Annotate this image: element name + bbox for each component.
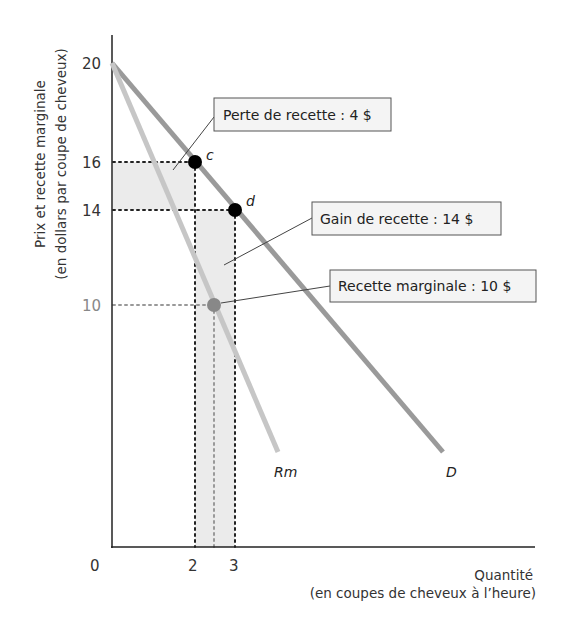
y-axis-subtitle: (en dollars par coupe de cheveux): [53, 48, 69, 280]
y-tick-14: 14: [82, 202, 101, 220]
d-curve-label: D: [446, 464, 457, 480]
svg-text:Perte de recette : 4 $: Perte de recette : 4 $: [223, 107, 372, 123]
x-tick-0: 0: [90, 557, 100, 575]
y-tick-16: 16: [82, 154, 101, 172]
y-tick-10: 10: [82, 297, 101, 315]
point-d: [228, 203, 242, 217]
leader-gain: [224, 218, 312, 265]
x-axis-subtitle: (en coupes de cheveux à l’heure): [310, 585, 536, 601]
annotation-gain: Gain de recette : 14 $: [312, 202, 501, 235]
chart: c d Perte de recette : 4 $ Gain de recet…: [0, 0, 564, 630]
y-axis-title: Prix et recette marginale: [32, 80, 48, 248]
point-c-label: c: [206, 147, 214, 163]
loss-area: [113, 162, 195, 210]
x-axis-title: Quantité: [474, 567, 533, 583]
annotation-marginal-revenue: Recette marginale : 10 $: [330, 270, 536, 302]
point-d-label: d: [246, 193, 255, 209]
point-marginal-revenue: [207, 298, 221, 312]
svg-text:Recette marginale : 10 $: Recette marginale : 10 $: [338, 278, 511, 294]
x-tick-2: 2: [188, 557, 198, 575]
point-c: [188, 155, 202, 169]
x-tick-3: 3: [229, 557, 239, 575]
annotation-perte: Perte de recette : 4 $: [214, 98, 391, 131]
rm-curve-label: Rm: [274, 464, 297, 480]
svg-text:Gain de recette : 14 $: Gain de recette : 14 $: [320, 211, 473, 227]
y-tick-20: 20: [82, 55, 101, 73]
